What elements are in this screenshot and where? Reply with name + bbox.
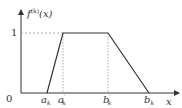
point-label-a: ak [41,94,51,106]
origin-label: 0 [6,93,12,104]
membership-curve [47,33,149,93]
y-label-sup: (k) [31,7,39,14]
x-axis-label: x [166,96,172,107]
y-axis-label: f(k)(x) [26,7,53,19]
y-tick-label: 1 [11,27,17,38]
y-label-arg: (x) [39,8,53,19]
point-label-a-prime: a′k [58,93,66,106]
diagram-canvas: 0 1 f(k)(x) x ak a′k b′k bk [0,0,182,108]
point-label-b-prime: b′k [103,93,112,106]
point-label-b: bk [144,94,154,106]
